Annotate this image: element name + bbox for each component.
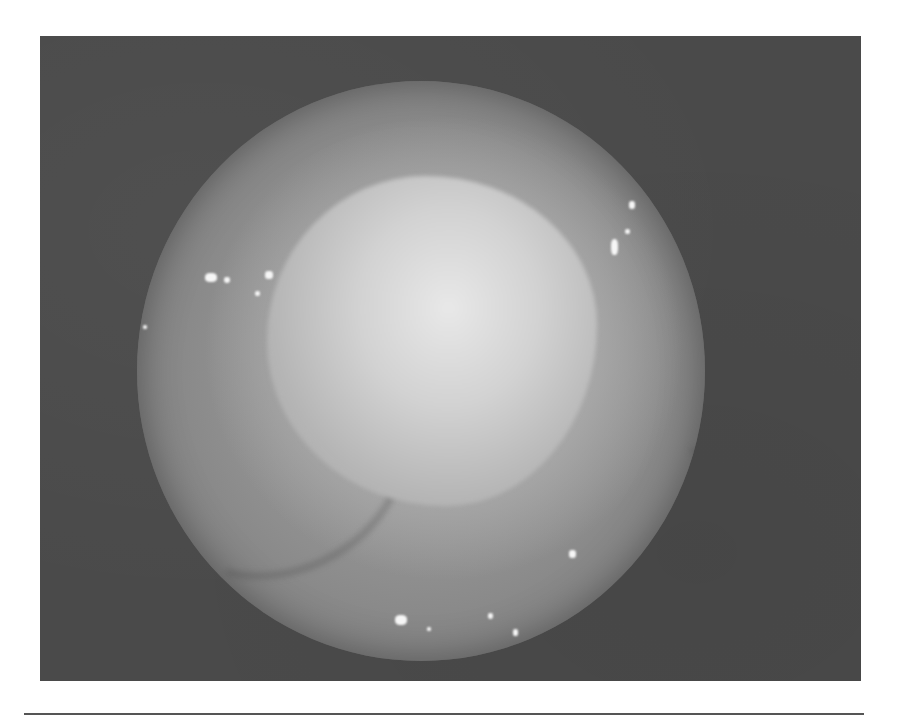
specular-highlight <box>265 271 273 279</box>
specular-highlight <box>395 615 407 625</box>
specular-highlight <box>255 291 260 296</box>
specular-highlight <box>513 629 518 636</box>
page <box>0 0 904 719</box>
specular-highlight <box>569 550 576 558</box>
specular-highlight <box>224 277 230 283</box>
specular-highlight <box>611 239 618 255</box>
endoscope-view <box>137 81 705 661</box>
specular-highlight <box>625 229 630 234</box>
specular-highlight <box>427 627 431 631</box>
specular-highlight <box>629 201 635 209</box>
specular-highlight <box>488 613 493 619</box>
photo-frame <box>40 36 861 681</box>
specular-highlight <box>143 325 147 329</box>
horizontal-rule <box>24 713 864 715</box>
specular-highlight <box>205 273 217 282</box>
